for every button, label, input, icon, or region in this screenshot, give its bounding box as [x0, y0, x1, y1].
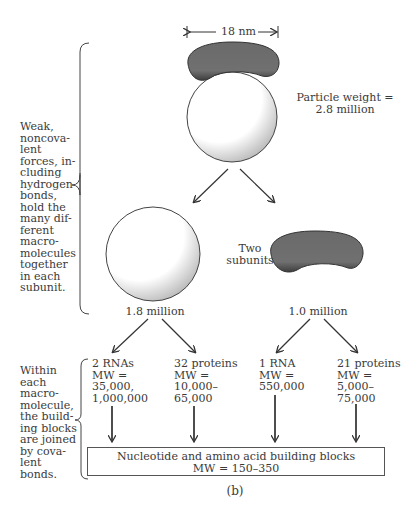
particle-weight-label: Particle weight = [290, 92, 400, 104]
component-21-proteins: 21 proteins MW = 5,000– 75,000 [337, 358, 401, 404]
particle-weight-value: 2.8 million [290, 104, 400, 116]
large-subunit-weight: 1.8 million [115, 306, 195, 318]
scale-label: 18 nm [219, 26, 258, 38]
two-subunits-label-1: Two [222, 243, 278, 255]
large-subunit-sphere [187, 72, 277, 162]
component-2-rnas: 2 RNAs MW = 35,000, 1,000,000 [92, 358, 148, 404]
separated-large-subunit [106, 207, 200, 301]
separated-small-subunit [271, 231, 363, 272]
small-subunit-weight: 1.0 million [278, 306, 358, 318]
figure-caption: (b) [220, 486, 250, 498]
covalent-annotation: Within each macro- molecule, the build- … [20, 365, 77, 480]
building-blocks-line2: MW = 150–350 [88, 462, 384, 475]
noncovalent-annotation: Weak, noncova- lent forces, in- cluding … [20, 121, 76, 294]
building-blocks-box: Nucleotide and amino acid building block… [87, 447, 385, 476]
component-1-rna: 1 RNA MW = 550,000 [259, 358, 305, 393]
two-subunits-label-2: subunits [222, 255, 278, 267]
component-32-proteins: 32 proteins MW = 10,000– 65,000 [174, 358, 238, 404]
